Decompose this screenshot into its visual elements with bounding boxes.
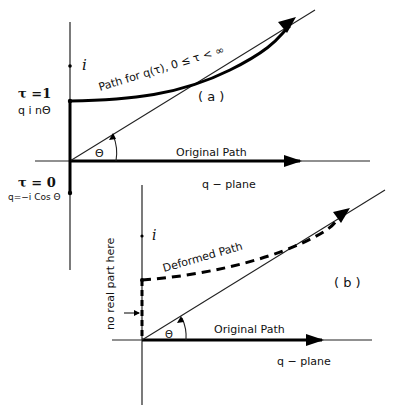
plane-label-a: q − plane	[202, 178, 256, 191]
i-label-a: i	[82, 56, 87, 74]
original-path-label-a: Original Path	[176, 146, 247, 159]
note-pointer-arrow-b	[134, 310, 140, 316]
path-label-a: Path for q(τ), 0 ≤ τ < ∞	[97, 43, 226, 94]
diagram-b: i Deformed Path ( b ) Θ Original Path q …	[104, 185, 385, 405]
tau1-q-label: q i nΘ	[18, 104, 51, 117]
tau0-label: τ = 0	[18, 175, 56, 190]
tau0-point-a	[68, 191, 72, 195]
label-b: ( b )	[334, 275, 361, 290]
theta-label-a: Θ	[95, 147, 104, 160]
no-real-part-note: no real part here	[104, 237, 117, 330]
original-path-arrow-a	[284, 155, 302, 167]
diagram-a: i Path for q(τ), 0 ≤ τ < ∞ τ =1 q i nΘ (…	[8, 10, 370, 270]
i-label-b: i	[152, 227, 156, 243]
tau0-q-label: q=−i Cos Θ	[8, 192, 61, 202]
theta-label-b: Θ	[165, 329, 173, 340]
deformed-path-label: Deformed Path	[161, 240, 244, 275]
original-path-arrow-b	[306, 334, 324, 346]
i-point-b	[140, 234, 143, 237]
tau1-label: τ =1	[18, 86, 51, 101]
contour-diagram: i Path for q(τ), 0 ≤ τ < ∞ τ =1 q i nΘ (…	[0, 0, 393, 413]
original-path-label-b: Original Path	[214, 323, 285, 336]
plane-label-b: q − plane	[277, 355, 331, 368]
i-point-a	[68, 64, 72, 68]
label-a: ( a )	[198, 89, 224, 104]
